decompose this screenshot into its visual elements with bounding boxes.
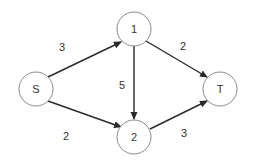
flow-network-diagram: S12T 32523 — [0, 0, 253, 162]
edge-S-to-2-weight: 2 — [63, 130, 69, 142]
edge-2-to-T-weight: 3 — [181, 127, 187, 139]
nodes-group: S12T — [19, 12, 237, 154]
node-1: 1 — [117, 12, 151, 46]
node-S: S — [19, 72, 53, 106]
node-T: T — [203, 72, 237, 106]
edge-1-to-2-weight: 5 — [119, 79, 125, 91]
edge-2-to-T-arrow — [150, 101, 207, 129]
edge-S-to-1-weight: 3 — [59, 41, 65, 53]
node-T-label: T — [217, 83, 224, 95]
node-2-label: 2 — [131, 131, 137, 143]
edges-group — [48, 41, 207, 129]
edge-S-to-2-arrow — [48, 101, 121, 127]
edge-1-to-T-weight: 2 — [180, 40, 186, 52]
edge-1-to-T-arrow — [146, 41, 207, 77]
node-S-label: S — [32, 83, 39, 95]
node-1-label: 1 — [131, 23, 137, 35]
node-2: 2 — [117, 120, 151, 154]
